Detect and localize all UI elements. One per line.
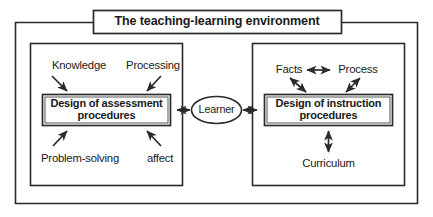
label-problem-solving: Problem-solving [41,152,119,164]
label-processing: Processing [126,59,180,71]
knowledge-arrow [52,76,67,91]
facts-box-connector [290,78,306,92]
label-knowledge: Knowledge [52,59,106,71]
label-facts: Facts [276,63,303,75]
label-curriculum: Curriculum [302,157,355,169]
process-box-connector [346,78,360,92]
teaching-learning-environment-diagram: The teaching-learning environment Knowle… [0,0,433,217]
affect-arrow [147,131,161,146]
label-process: Process [338,63,377,75]
label-affect: affect [147,152,173,164]
learner-node-label: Learner [199,104,235,116]
instruction-box-line2: procedures [300,110,358,122]
problem-solving-arrow [53,131,67,146]
diagram-title: The teaching-learning environment [114,15,319,29]
processing-arrow [147,76,161,91]
assessment-box-line2: procedures [78,110,136,122]
